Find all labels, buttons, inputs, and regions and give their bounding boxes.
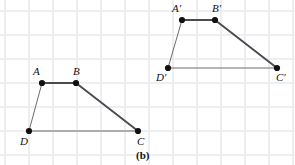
vertex-label-a: A	[33, 66, 40, 77]
vertex-point-a-prime	[179, 17, 185, 23]
vertex-label-c-prime: C′	[276, 72, 286, 83]
vertex-point-c	[135, 128, 141, 134]
vertex-label-d-prime: D′	[156, 72, 166, 83]
vertex-point-a	[39, 80, 45, 86]
vertex-label-a-prime: A′	[172, 3, 181, 14]
vertex-label-c: C	[137, 136, 144, 147]
geometry-figure: ABCDA′B′C′D′ (b)	[0, 0, 295, 165]
edges-layer	[29, 20, 277, 131]
vertex-point-d	[26, 128, 32, 134]
vertex-label-b-prime: B′	[212, 3, 221, 14]
edge-BpCp	[215, 20, 277, 68]
vertex-point-b-prime	[212, 17, 218, 23]
vertex-label-b: B	[73, 66, 80, 77]
vertex-label-d: D	[20, 136, 28, 147]
figure-canvas	[0, 0, 295, 165]
edge-DpAp	[168, 20, 182, 68]
figure-caption: (b)	[136, 150, 149, 161]
vertex-point-b	[73, 80, 79, 86]
